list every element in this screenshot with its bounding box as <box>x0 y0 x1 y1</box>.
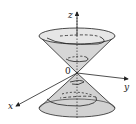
x-label: x <box>8 101 13 111</box>
origin-label: 0 <box>65 66 71 76</box>
double-cone-diagram: z y x 0 <box>0 0 136 124</box>
lower-cone <box>39 73 115 117</box>
y-axis <box>77 73 128 79</box>
z-label: z <box>67 10 73 20</box>
y-label: y <box>123 82 130 92</box>
